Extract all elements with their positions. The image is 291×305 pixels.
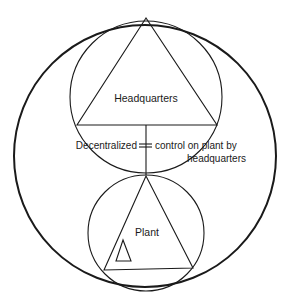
plant-label: Plant [135,226,159,238]
diagram-canvas: Headquarters Decentralized control on pl… [0,0,291,305]
relation-label-line1: control on plant by [155,140,237,151]
diagram-svg: Headquarters Decentralized control on pl… [0,0,291,305]
small-triangle [116,240,131,261]
headquarters-label: Headquarters [114,92,178,104]
relation-label-line2: headquarters [187,153,246,164]
decentralized-label: Decentralized [76,140,137,151]
